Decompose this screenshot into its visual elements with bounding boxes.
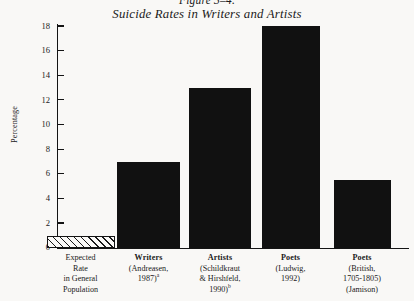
plot-area: 181614121086420 ExpectedRatein GeneralPo… — [0, 0, 414, 301]
y-tick-label: 16 — [30, 46, 50, 55]
y-tick-label: 18 — [30, 22, 50, 31]
bar-artists — [189, 88, 251, 248]
category-label-line: in General — [44, 274, 118, 285]
y-tick-label: 12 — [30, 96, 50, 105]
category-label-line: (Ludwig, — [256, 264, 326, 275]
category-label-line: & Hirshfeld, — [180, 274, 260, 285]
category-label-line: (Jamison) — [324, 285, 400, 296]
category-label-line: Poets — [256, 253, 326, 264]
y-tick-label: 8 — [30, 145, 50, 154]
y-tick-mark — [58, 50, 64, 51]
y-tick-mark — [58, 173, 64, 174]
category-label-line: 1705-1805) — [324, 274, 400, 285]
bar-poets-ludwig — [262, 26, 320, 248]
category-label-line: (Schildkraut — [180, 264, 260, 275]
y-tick-mark — [58, 99, 64, 100]
category-label-artists: Artists(Schildkraut& Hirshfeld,1990)b — [180, 253, 260, 295]
y-tick-label: 14 — [30, 71, 50, 80]
y-tick-mark — [58, 75, 64, 76]
category-label-line: Poets — [324, 253, 400, 264]
y-tick-mark — [58, 25, 64, 26]
category-label-line: (Andreasen, — [113, 264, 185, 275]
category-label-line: 1992) — [256, 274, 326, 285]
y-axis-line — [57, 24, 58, 249]
y-tick-label: 2 — [30, 219, 50, 228]
category-label-line: Writers — [113, 253, 185, 264]
category-label-line: Population — [44, 285, 118, 296]
category-label-poets-ludwig: Poets(Ludwig,1992) — [256, 253, 326, 285]
bar-poets-british — [334, 180, 391, 248]
y-tick-label: 6 — [30, 169, 50, 178]
category-label-writers: Writers(Andreasen,1987)a — [113, 253, 185, 285]
category-label-expected-rate: ExpectedRatein GeneralPopulation — [44, 253, 118, 295]
category-label-line: Artists — [180, 253, 260, 264]
y-tick-mark — [58, 222, 64, 223]
y-tick-mark — [58, 149, 64, 150]
category-label-line: Rate — [44, 264, 118, 275]
figure-container: Figure 3–4. Suicide Rates in Writers and… — [0, 0, 414, 301]
bar-expected-rate — [47, 236, 115, 248]
bar-writers — [117, 162, 180, 248]
y-tick-mark — [58, 198, 64, 199]
footnote-marker: b — [228, 283, 231, 289]
category-label-line: 1990)b — [180, 285, 260, 296]
footnote-marker: a — [157, 273, 159, 279]
y-tick-label: 10 — [30, 120, 50, 129]
category-label-line: (British, — [324, 264, 400, 275]
y-tick-label: 4 — [30, 194, 50, 203]
category-label-poets-british: Poets(British,1705-1805)(Jamison) — [324, 253, 400, 295]
category-label-line: 1987)a — [113, 274, 185, 285]
category-label-line: Expected — [44, 253, 118, 264]
y-tick-mark — [58, 124, 64, 125]
